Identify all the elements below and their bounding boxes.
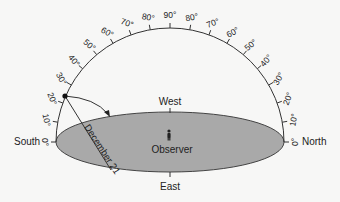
altitude-tick bbox=[209, 30, 211, 35]
altitude-tick-label: 10° bbox=[41, 113, 53, 127]
east-label: East bbox=[160, 181, 180, 192]
altitude-tick bbox=[149, 25, 150, 30]
altitude-tick bbox=[111, 39, 114, 43]
horizon-ground-ellipse bbox=[56, 112, 284, 172]
altitude-tick-label: 30° bbox=[54, 71, 69, 87]
altitude-tick-label: 70° bbox=[119, 16, 135, 30]
altitude-tick-label: 50° bbox=[242, 37, 258, 53]
altitude-tick-label: 20° bbox=[281, 91, 295, 107]
altitude-tick-label: 50° bbox=[81, 37, 97, 53]
altitude-tick-label: 60° bbox=[225, 25, 241, 40]
observer-label: Observer bbox=[151, 144, 193, 155]
west-label: West bbox=[159, 96, 182, 107]
altitude-tick bbox=[129, 30, 131, 35]
altitude-tick bbox=[190, 25, 191, 30]
altitude-tick bbox=[243, 51, 246, 55]
altitude-tick bbox=[53, 121, 58, 122]
altitude-tick-label: 0° bbox=[290, 138, 300, 146]
altitude-tick-label: 30° bbox=[271, 71, 286, 87]
sun-position-dot bbox=[62, 93, 67, 98]
altitude-tick-label: 60° bbox=[99, 25, 115, 40]
altitude-tick bbox=[282, 121, 287, 122]
altitude-tick-label: 0° bbox=[40, 138, 50, 146]
sun-motion-arrow bbox=[65, 96, 108, 114]
north-label: North bbox=[302, 136, 326, 147]
sun-path-diagram: 0°10°20°30°40°50°60°70°80°90°80°70°60°50… bbox=[0, 0, 340, 202]
altitude-tick bbox=[94, 51, 97, 55]
south-label: South bbox=[14, 136, 40, 147]
altitude-tick bbox=[79, 66, 83, 69]
altitude-tick bbox=[67, 83, 71, 86]
altitude-tick-label: 20° bbox=[45, 91, 59, 107]
altitude-tick-label: 80° bbox=[141, 11, 155, 23]
altitude-tick-label: 70° bbox=[205, 16, 221, 30]
altitude-tick bbox=[257, 66, 261, 69]
altitude-tick-label: 80° bbox=[185, 11, 199, 23]
altitude-tick-label: 10° bbox=[287, 113, 299, 127]
altitude-tick-label: 90° bbox=[164, 10, 177, 20]
